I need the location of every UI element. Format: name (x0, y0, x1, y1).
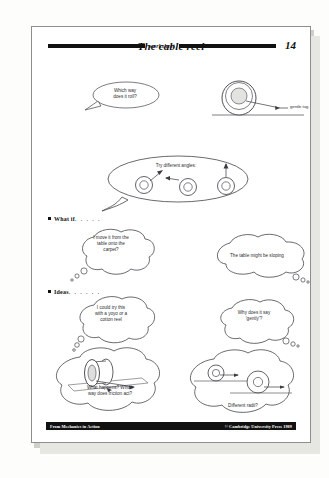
yoyo-bubble-text: I could try this with a yoyo or a cotton… (80, 305, 142, 323)
worksheet-page: worksheet 14 The cable reel Which way do… (31, 26, 311, 443)
cable-reel-diagram (210, 71, 310, 123)
friction-thought-bubble (46, 345, 172, 421)
page-footer: From Mechanics in Action © Cambridge Uni… (46, 422, 296, 430)
sloping-bubble-text: The table might be sloping (212, 253, 302, 259)
section-heading-what-if: What if. . . . . (48, 216, 101, 222)
radii-thought-bubble (180, 347, 306, 421)
section-bullet-icon-2 (48, 290, 51, 293)
section-label-what-if: What if (54, 216, 75, 222)
scanned-page-area: worksheet 14 The cable reel Which way do… (0, 0, 329, 478)
which-way-bubble-text: Which way does it roll? (94, 88, 156, 100)
gentle-tug-label: gentle tug (290, 104, 308, 109)
footer-source: From Mechanics in Action (50, 424, 100, 429)
section-bullet-icon (48, 217, 51, 220)
section-dots-what-if: . . . . . (75, 216, 101, 222)
friction-bubble-text: What happens? Which way does friction ac… (72, 385, 148, 397)
gently-bubble-text: Why does it say 'gently'? (218, 310, 290, 322)
sloping-thought-bubble (204, 233, 311, 285)
radii-bubble-text: Different radii? (210, 403, 276, 409)
carpet-bubble-text: I move it from the table onto the carpet… (80, 235, 142, 253)
page-title: The cable reel (32, 40, 310, 52)
try-angles-caption: Try different angles: (128, 163, 224, 169)
footer-copyright: © Cambridge University Press 1989 (225, 424, 292, 429)
